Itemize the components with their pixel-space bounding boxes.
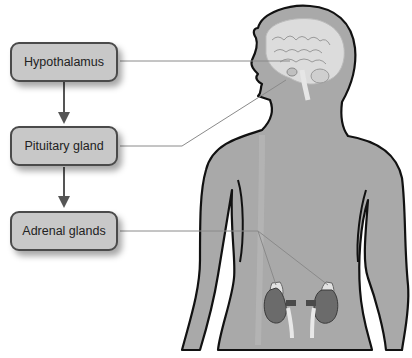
hypothalamus-label: Hypothalamus <box>24 55 104 69</box>
hypothalamus-box: Hypothalamus <box>10 42 118 82</box>
arrow-down-icon <box>58 112 70 124</box>
pituitary-gland-label: Pituitary gland <box>24 139 103 153</box>
pituitary-gland-box: Pituitary gland <box>10 126 118 166</box>
endocrine-axis-diagram: Hypothalamus Pituitary gland Adrenal gla… <box>0 0 412 358</box>
adrenal-glands-box: Adrenal glands <box>10 211 118 251</box>
adrenal-glands-label: Adrenal glands <box>22 224 105 238</box>
arrow-down-icon <box>58 196 70 208</box>
